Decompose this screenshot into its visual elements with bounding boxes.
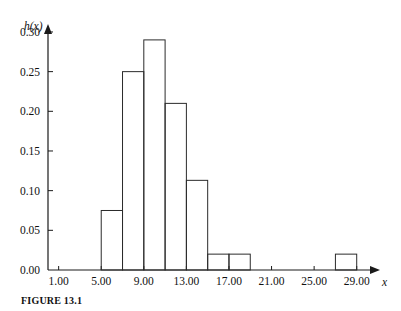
y-tick-label: 0.20 <box>20 105 40 117</box>
histogram-chart: 0.000.050.100.150.200.250.301.005.009.00… <box>0 0 401 311</box>
x-tick-label: 29.00 <box>344 275 370 287</box>
histogram-bar <box>123 72 144 270</box>
figure-container: 0.000.050.100.150.200.250.301.005.009.00… <box>0 0 401 311</box>
histogram-bar <box>144 40 165 270</box>
x-tick-label: 1.00 <box>49 275 69 287</box>
y-tick-label: 0.05 <box>20 224 40 236</box>
y-tick-label: 0.10 <box>20 185 40 197</box>
y-tick-label: 0.00 <box>20 264 40 276</box>
figure-caption: FIGURE 13.1 <box>21 295 82 309</box>
histogram-bar <box>208 254 229 270</box>
x-tick-label: 5.00 <box>91 275 111 287</box>
x-tick-label: 9.00 <box>134 275 154 287</box>
histogram-bar <box>165 103 186 270</box>
x-tick-label: 21.00 <box>259 275 285 287</box>
x-tick-label: 25.00 <box>301 275 327 287</box>
histogram-bar <box>335 254 356 270</box>
y-tick-label: 0.25 <box>20 66 40 78</box>
x-tick-label: 17.00 <box>216 275 242 287</box>
x-axis-title: x <box>381 276 388 288</box>
histogram-bar <box>186 180 207 270</box>
x-tick-label: 13.00 <box>173 275 199 287</box>
y-axis-arrow-icon <box>44 24 52 34</box>
histogram-bar <box>101 210 122 270</box>
histogram-bar <box>229 254 250 270</box>
y-axis-title: h(x) <box>24 20 43 33</box>
y-tick-label: 0.15 <box>20 145 40 157</box>
x-axis-arrow-icon <box>370 266 380 274</box>
